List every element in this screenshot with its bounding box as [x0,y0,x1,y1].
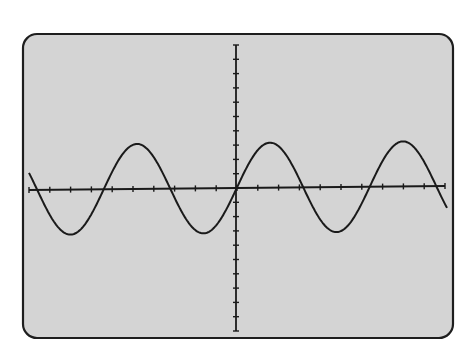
oscilloscope-screen [0,0,474,358]
